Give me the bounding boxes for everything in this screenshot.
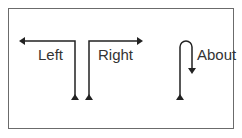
turn-arrows-diagram <box>0 0 242 138</box>
u-turn-arrow-icon <box>176 41 196 100</box>
right-label: Right <box>98 47 133 62</box>
left-label: Left <box>38 47 63 62</box>
about-label: About <box>197 47 236 62</box>
